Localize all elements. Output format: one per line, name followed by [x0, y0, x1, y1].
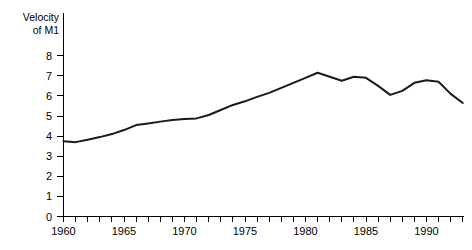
y-axis-label-line1: Velocity: [23, 11, 60, 23]
x-tick-label: 1960: [51, 225, 75, 237]
velocity-of-m1-chart: Velocity of M1 012345678 196019651970197…: [0, 0, 472, 250]
x-axis-tick-labels: 1960196519701975198019851990: [51, 225, 438, 237]
x-tick-label: 1970: [172, 225, 196, 237]
velocity-series-line: [64, 73, 463, 142]
x-axis-ticks: [64, 217, 463, 222]
y-axis-tick-labels: 012345678: [46, 50, 52, 223]
y-tick-label: 3: [46, 150, 52, 162]
y-tick-label: 2: [46, 170, 52, 182]
y-axis-label-line2: of M1: [33, 24, 59, 36]
y-tick-label: 0: [46, 211, 52, 223]
y-tick-label: 6: [46, 90, 52, 102]
y-tick-label: 8: [46, 50, 52, 62]
y-tick-label: 7: [46, 70, 52, 82]
x-tick-label: 1965: [112, 225, 136, 237]
x-tick-label: 1985: [354, 225, 378, 237]
y-tick-label: 4: [46, 130, 52, 142]
x-tick-label: 1990: [414, 225, 438, 237]
x-tick-label: 1975: [233, 225, 257, 237]
y-axis-ticks: [57, 56, 64, 217]
x-tick-label: 1980: [293, 225, 317, 237]
y-tick-label: 5: [46, 110, 52, 122]
y-tick-label: 1: [46, 190, 52, 202]
chart-canvas: Velocity of M1 012345678 196019651970197…: [0, 0, 472, 250]
